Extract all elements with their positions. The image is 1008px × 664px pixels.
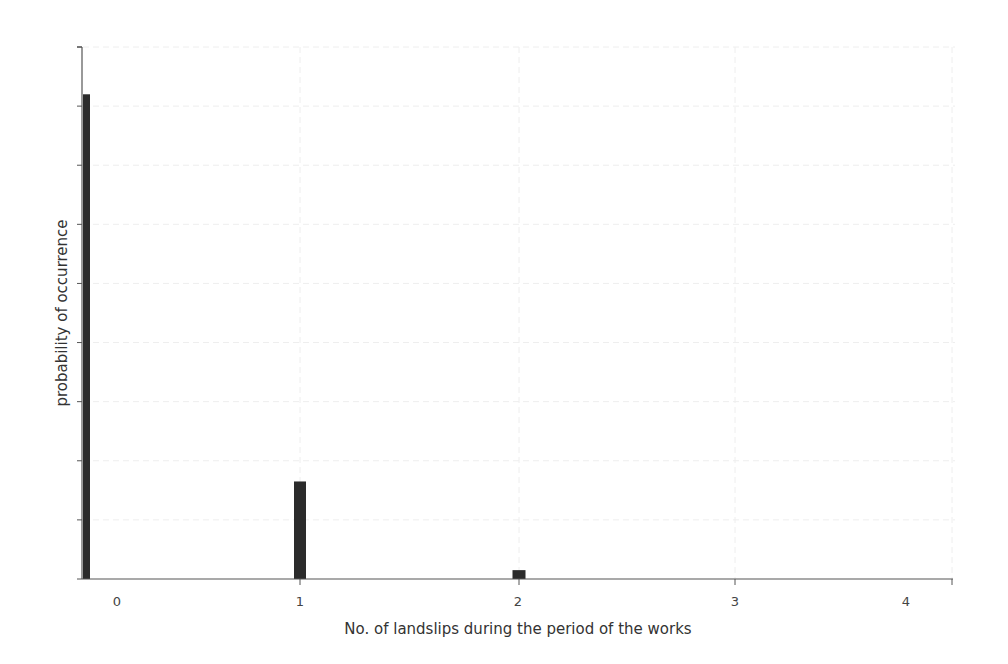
bar-0 [83, 94, 90, 579]
x-ticks [300, 579, 952, 585]
x-tick-label-1: 1 [296, 594, 304, 609]
bars [83, 94, 526, 579]
y-ticks [77, 47, 82, 579]
bar-chart: 0 1 2 3 4 No. of landslips during the pe… [0, 0, 1008, 664]
x-tick-labels: 0 1 2 3 4 [113, 594, 910, 609]
bar-1 [294, 481, 306, 579]
x-tick-label-2: 2 [514, 594, 522, 609]
gridlines [83, 47, 955, 579]
x-tick-label-4: 4 [902, 594, 910, 609]
x-axis-title: No. of landslips during the period of th… [344, 620, 692, 638]
y-axis-title: probability of occurrence [53, 219, 71, 406]
bar-2 [513, 570, 526, 579]
x-tick-label-3: 3 [731, 594, 739, 609]
axes [77, 47, 953, 579]
x-tick-label-0: 0 [113, 594, 121, 609]
